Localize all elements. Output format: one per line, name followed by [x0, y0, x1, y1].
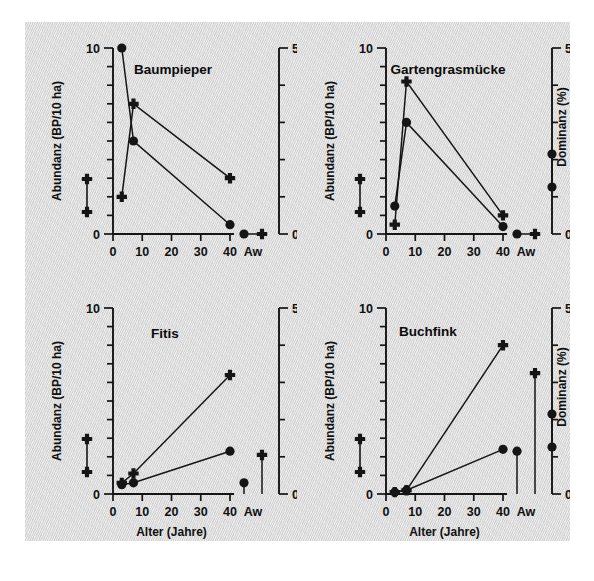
right-y-axis: 500 — [279, 42, 297, 242]
svg-text:50: 50 — [292, 302, 297, 316]
panel-gartengrasmuecke-svg: 100Abundanz (BP/10 ha)010203040Aw500Domi… — [298, 22, 570, 281]
svg-text:0: 0 — [292, 228, 297, 242]
series-line — [395, 345, 503, 492]
aw-point-abundanz — [512, 447, 521, 456]
data-point-dominanz — [390, 220, 400, 230]
panel-fitis-title: Fitis — [151, 326, 179, 341]
svg-text:40: 40 — [496, 245, 510, 259]
left-axis-title: Abundanz (BP/10 ha) — [323, 81, 337, 201]
x-axis-title: Alter (Jahre) — [136, 525, 207, 539]
legend-left-markers — [82, 174, 92, 217]
left-y-axis: 100Abundanz (BP/10 ha) — [50, 302, 113, 502]
right-axis-title: Dominanz (%) — [555, 347, 569, 426]
svg-text:10: 10 — [359, 42, 373, 56]
svg-text:30: 30 — [467, 505, 481, 519]
series-dominanz — [390, 340, 509, 497]
left-axis-title: Abundanz (BP/10 ha) — [323, 341, 337, 461]
series-line — [122, 375, 230, 483]
series-line — [122, 104, 230, 197]
svg-text:40: 40 — [223, 505, 237, 519]
data-point-abundanz — [129, 136, 138, 145]
aw-cluster — [512, 368, 540, 494]
right-y-axis: 500Dominanz (%) — [552, 42, 570, 242]
legend-left-markers — [355, 434, 365, 477]
series-abundanz — [117, 447, 234, 490]
legend-marker-right-bottom — [547, 182, 556, 191]
legend-right-markers — [547, 409, 556, 451]
left-y-axis: 100Abundanz (BP/10 ha) — [323, 302, 386, 502]
legend-marker-left-top — [355, 434, 365, 444]
left-axis-title: Abundanz (BP/10 ha) — [50, 341, 64, 461]
aw-point-dominanz — [257, 450, 267, 460]
left-y-axis: 100Abundanz (BP/10 ha) — [323, 42, 386, 242]
x-axis-aw-label: Aw — [244, 505, 263, 519]
x-axis: 010203040Aw — [110, 234, 263, 259]
legend-marker-left-top — [355, 174, 365, 184]
svg-text:50: 50 — [565, 42, 570, 56]
data-series-group — [117, 370, 236, 490]
legend-marker-left-top — [82, 174, 92, 184]
svg-text:10: 10 — [135, 245, 149, 259]
series-abundanz — [390, 118, 507, 231]
panel-baumpieper-title: Baumpieper — [134, 62, 213, 77]
svg-text:30: 30 — [467, 245, 481, 259]
svg-text:0: 0 — [93, 228, 100, 242]
data-point-abundanz — [498, 445, 507, 454]
left-axis-title: Abundanz (BP/10 ha) — [50, 81, 64, 201]
data-point-abundanz — [225, 220, 234, 229]
svg-text:0: 0 — [383, 505, 390, 519]
x-axis: 010203040AwAlter (Jahre) — [383, 494, 536, 539]
aw-point-abundanz — [512, 229, 521, 238]
svg-text:0: 0 — [93, 488, 100, 502]
series-dominanz — [117, 99, 236, 202]
series-line — [395, 122, 503, 226]
svg-text:0: 0 — [366, 488, 373, 502]
svg-text:20: 20 — [438, 505, 452, 519]
series-line — [395, 82, 503, 225]
data-series-group — [390, 340, 509, 497]
svg-text:50: 50 — [565, 302, 570, 316]
legend-right-markers — [547, 149, 556, 191]
x-axis: 010203040AwAlter (Jahre) — [110, 494, 263, 539]
svg-text:10: 10 — [408, 245, 422, 259]
legend-marker-left-bottom — [355, 207, 365, 217]
data-point-dominanz — [498, 340, 508, 350]
chart-panel-buchfink: 100Abundanz (BP/10 ha)010203040AwAlter (… — [298, 282, 570, 541]
data-point-dominanz — [117, 192, 127, 202]
aw-point-dominanz — [257, 229, 267, 239]
svg-text:20: 20 — [438, 245, 452, 259]
data-point-dominanz — [401, 76, 411, 86]
svg-text:10: 10 — [86, 302, 100, 316]
legend-left-markers — [82, 434, 92, 477]
right-axis-title: Dominanz (%) — [555, 87, 569, 166]
data-point-abundanz — [129, 478, 138, 487]
panel-baumpieper-svg: 100Abundanz (BP/10 ha)010203040Aw500Baum… — [25, 22, 297, 281]
x-axis-aw-label: Aw — [517, 245, 536, 259]
right-y-axis: 500Dominanz (%) — [552, 302, 570, 502]
panel-buchfink-title: Buchfink — [399, 324, 457, 339]
data-series-group — [390, 76, 509, 231]
svg-text:10: 10 — [359, 302, 373, 316]
data-point-abundanz — [498, 222, 507, 231]
data-point-dominanz — [390, 487, 400, 497]
svg-text:20: 20 — [165, 505, 179, 519]
chart-panel-fitis: 100Abundanz (BP/10 ha)010203040AwAlter (… — [25, 282, 297, 541]
svg-text:20: 20 — [165, 245, 179, 259]
svg-text:40: 40 — [496, 505, 510, 519]
svg-text:0: 0 — [383, 245, 390, 259]
svg-text:30: 30 — [194, 245, 208, 259]
x-axis-aw-label: Aw — [244, 245, 263, 259]
panel-buchfink-svg: 100Abundanz (BP/10 ha)010203040AwAlter (… — [298, 282, 570, 541]
aw-cluster — [239, 450, 267, 494]
x-axis-title: Alter (Jahre) — [409, 525, 480, 539]
legend-marker-left-top — [82, 434, 92, 444]
svg-text:10: 10 — [135, 505, 149, 519]
legend-marker-left-bottom — [355, 467, 365, 477]
data-point-dominanz — [498, 210, 508, 220]
svg-text:10: 10 — [408, 505, 422, 519]
svg-text:0: 0 — [110, 505, 117, 519]
aw-point-dominanz — [530, 229, 540, 239]
data-point-abundanz — [390, 202, 399, 211]
x-axis: 010203040Aw — [383, 234, 536, 259]
panel-gartengrasmuecke-title: Gartengrasmücke — [391, 62, 506, 77]
